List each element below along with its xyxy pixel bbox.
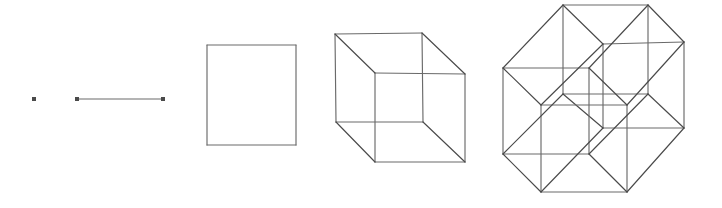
figure-svg [0, 0, 722, 208]
line-segment-vertex [75, 97, 79, 101]
point-shape [32, 97, 36, 101]
dimensional-progression-figure [0, 0, 722, 208]
figure-background [0, 0, 722, 208]
line-segment-vertex [161, 97, 165, 101]
point-vertex [32, 97, 36, 101]
